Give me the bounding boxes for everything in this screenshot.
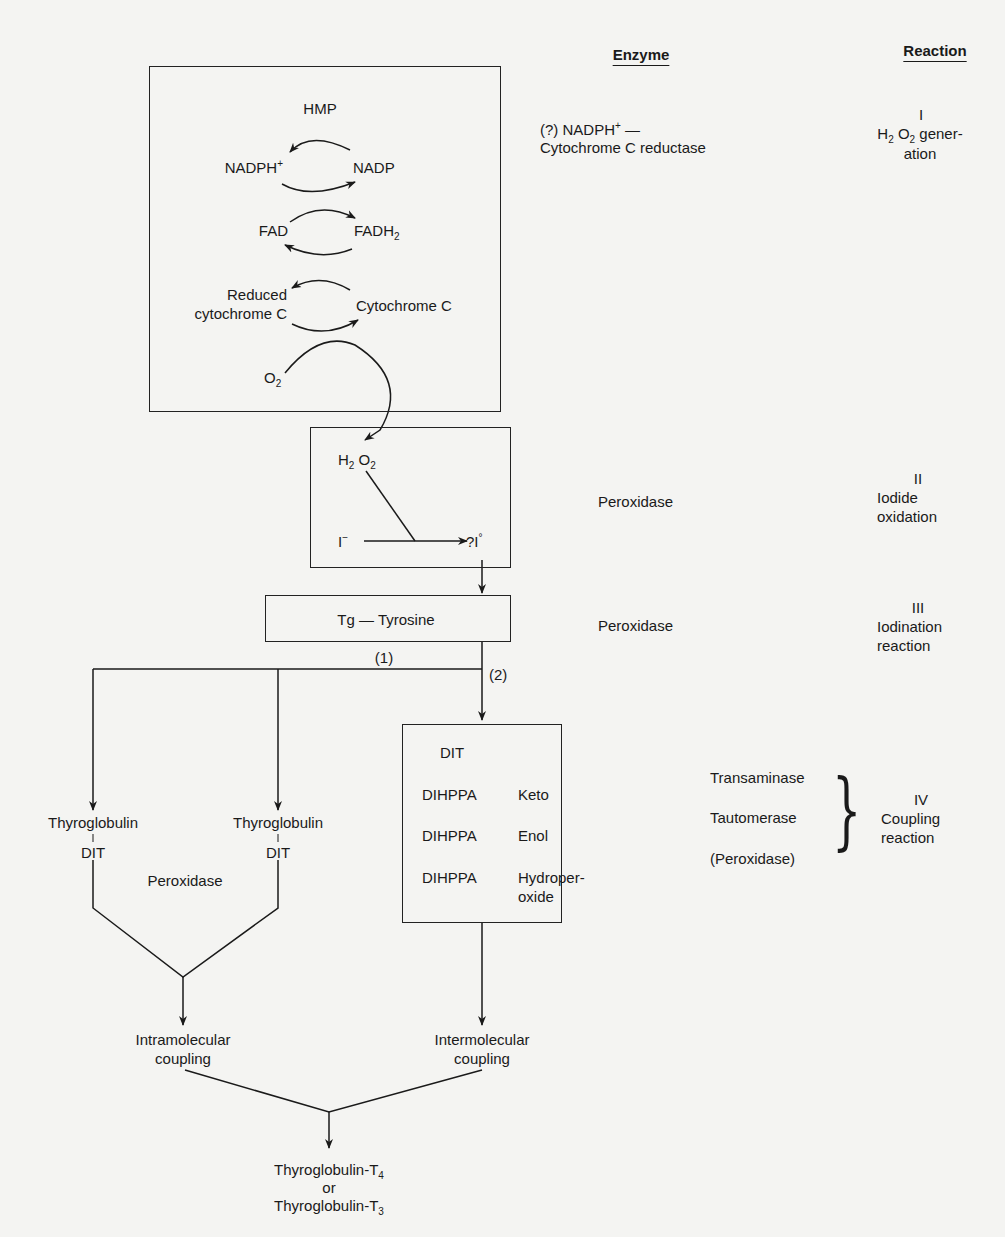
thyroglobulin-left-label: Thyroglobulin xyxy=(48,813,138,832)
dihppa-enol-label: DIHPPA xyxy=(422,826,477,845)
enzyme-iii: Peroxidase xyxy=(598,616,673,635)
fad-label: FAD xyxy=(259,221,288,240)
cytochrome-c-label: Cytochrome C xyxy=(356,296,452,315)
branch-1-label: (1) xyxy=(375,648,393,667)
reaction-iv-label: Coupling xyxy=(881,809,940,828)
reaction-ii-label-2: oxidation xyxy=(877,507,937,526)
brace-icon: } xyxy=(832,768,861,852)
hmp-label: HMP xyxy=(303,99,336,118)
branch-2-label: (2) xyxy=(489,665,507,684)
enzyme-i: (?) NADPH+ — xyxy=(540,120,640,139)
thyroglobulin-right-label: Thyroglobulin xyxy=(233,813,323,832)
dihppa-hydroperoxide-label: DIHPPA xyxy=(422,868,477,887)
fadh2-label: FADH2 xyxy=(354,221,400,240)
reaction-i-label: H2 O2 gener- xyxy=(877,124,962,143)
tg-tyrosine-label: Tg — Tyrosine xyxy=(337,610,434,629)
dit-row-label: DIT xyxy=(440,743,464,762)
enzyme-column-header: Enzyme xyxy=(613,45,670,64)
keto-label: Keto xyxy=(518,785,549,804)
intermolecular-label: Intermolecular xyxy=(434,1030,529,1049)
final-or: or xyxy=(322,1178,335,1197)
hydroperoxide-label-2: oxide xyxy=(518,887,554,906)
reduced-cytochrome-label: Reduced xyxy=(227,285,287,304)
nadp-label: NADP xyxy=(353,158,395,177)
reduced-cytochrome-label-2: cytochrome C xyxy=(194,304,287,323)
reaction-iii-number: III xyxy=(912,598,925,617)
reaction-iv-number: IV xyxy=(914,790,928,809)
iodide-label: I− xyxy=(338,532,348,551)
dihppa-keto-label: DIHPPA xyxy=(422,785,477,804)
enzyme-iv-transaminase: Transaminase xyxy=(710,768,804,787)
enzyme-iv-tautomerase: Tautomerase xyxy=(710,808,797,827)
reaction-i-label-2: ation xyxy=(904,144,937,163)
intramolecular-label: Intramolecular xyxy=(135,1030,230,1049)
h2o2-label: H2 O2 xyxy=(338,450,376,469)
final-product-t3: Thyroglobulin-T3 xyxy=(274,1196,384,1215)
reaction-iii-label-2: reaction xyxy=(877,636,930,655)
final-product-t4: Thyroglobulin-T4 xyxy=(274,1160,384,1179)
intramolecular-label-2: coupling xyxy=(155,1049,211,1068)
reaction-column-header: Reaction xyxy=(903,41,966,60)
enzyme-iv-peroxidase: (Peroxidase) xyxy=(710,849,795,868)
enzyme-ii: Peroxidase xyxy=(598,492,673,511)
dit-right-label: DIT xyxy=(266,843,290,862)
reaction-ii-label: Iodide xyxy=(877,488,918,507)
peroxidase-left-label: Peroxidase xyxy=(147,871,222,890)
reaction-iii-label: Iodination xyxy=(877,617,942,636)
hydroperoxide-label: Hydroper- xyxy=(518,868,585,887)
iodine-label: ?I° xyxy=(466,532,483,551)
enol-label: Enol xyxy=(518,826,548,845)
reaction-i-number: I xyxy=(919,105,923,124)
reaction-ii-number: II xyxy=(914,469,922,488)
oxygen-label: O2 xyxy=(264,368,281,387)
enzyme-i-2: Cytochrome C reductase xyxy=(540,138,706,157)
reaction-iv-label-2: reaction xyxy=(881,828,934,847)
intermolecular-label-2: coupling xyxy=(454,1049,510,1068)
dit-left-label: DIT xyxy=(81,843,105,862)
nadph-label: NADPH+ xyxy=(225,158,283,177)
